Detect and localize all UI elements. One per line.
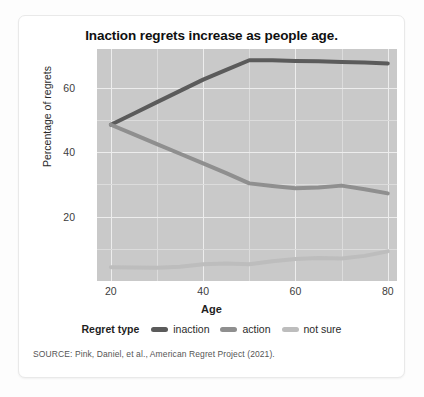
legend-swatch-icon (220, 327, 237, 332)
y-tick-label: 60 (35, 82, 75, 94)
y-tick-label: 40 (35, 146, 75, 158)
legend-item-not-sure[interactable]: not sure (282, 323, 342, 335)
chart-legend: Regret type inactionactionnot sure (19, 323, 404, 335)
line-series-group (97, 49, 397, 281)
legend-title: Regret type (82, 323, 140, 335)
x-tick-label: 60 (290, 285, 302, 297)
x-tick-label: 40 (197, 285, 209, 297)
x-axis-label: Age (19, 303, 404, 315)
plot-wrapper: 204060 20406080 (79, 49, 397, 285)
legend-item-action[interactable]: action (220, 323, 270, 335)
legend-swatch-icon (151, 327, 168, 332)
source-note: SOURCE: Pink, Daniel, et al., American R… (33, 349, 275, 359)
x-tick-label: 20 (105, 285, 117, 297)
line-series-action (111, 125, 388, 194)
line-series-not-sure (111, 251, 388, 267)
chart-card: Inaction regrets increase as people age.… (18, 15, 405, 378)
x-tick-label: 80 (382, 285, 394, 297)
legend-label: inaction (173, 323, 209, 335)
legend-swatch-icon (282, 327, 299, 332)
legend-label: not sure (304, 323, 342, 335)
screenshot-root: Inaction regrets increase as people age.… (0, 0, 424, 397)
y-tick-label: 20 (35, 211, 75, 223)
legend-label: action (242, 323, 270, 335)
page-title: Inaction regrets increase as people age. (19, 28, 404, 43)
legend-item-inaction[interactable]: inaction (151, 323, 209, 335)
line-series-inaction (111, 60, 388, 124)
plot-area (97, 49, 397, 281)
